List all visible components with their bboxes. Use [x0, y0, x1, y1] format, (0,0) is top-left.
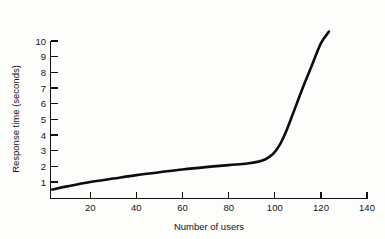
- y-axis-group: 10 9 8 7 6 5 4 3 2 1 Response time (seco…: [10, 36, 58, 199]
- x-tick-label-140: 140: [359, 202, 375, 213]
- x-tick-marks: [90, 192, 367, 199]
- chart-figure: 10 9 8 7 6 5 4 3 2 1 Response time (seco…: [0, 0, 385, 239]
- x-tick-labels: 20 40 60 80 100 120 140: [85, 202, 375, 213]
- y-tick-label-7: 7: [41, 83, 46, 94]
- x-axis-title: Number of users: [174, 221, 244, 232]
- x-tick-label-20: 20: [85, 202, 96, 213]
- y-tick-label-9: 9: [41, 51, 46, 62]
- y-tick-label-2: 2: [41, 161, 46, 172]
- x-axis-group: 20 40 60 80 100 120 140 Number of users: [51, 192, 375, 233]
- x-tick-label-40: 40: [131, 202, 142, 213]
- response-time-curve: [52, 32, 329, 190]
- y-tick-label-6: 6: [41, 98, 46, 109]
- y-axis-title: Response time (seconds): [10, 65, 21, 173]
- y-tick-label-4: 4: [41, 130, 46, 141]
- y-tick-label-1: 1: [41, 177, 46, 188]
- y-tick-label-5: 5: [41, 114, 46, 125]
- y-tick-label-8: 8: [41, 67, 46, 78]
- y-tick-label-10: 10: [35, 36, 46, 47]
- x-tick-label-120: 120: [313, 202, 329, 213]
- response-time-line-chart: 10 9 8 7 6 5 4 3 2 1 Response time (seco…: [0, 0, 385, 239]
- y-tick-labels: 10 9 8 7 6 5 4 3 2 1: [35, 36, 46, 188]
- data-series-group: [52, 32, 329, 190]
- x-tick-label-80: 80: [223, 202, 234, 213]
- x-tick-label-60: 60: [177, 202, 188, 213]
- x-tick-label-100: 100: [267, 202, 283, 213]
- y-tick-label-3: 3: [41, 145, 46, 156]
- y-tick-marks: [51, 41, 58, 182]
